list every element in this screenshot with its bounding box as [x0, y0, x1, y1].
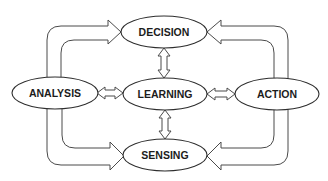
arrow-analysis-to-decision — [47, 20, 121, 78]
double-arrow-analysis-learning — [97, 87, 123, 99]
arrow-action-to-sensing — [207, 109, 288, 170]
learning-label: LEARNING — [138, 88, 193, 100]
cycle-diagram: DECISION ANALYSIS LEARNING ACTION SENSIN… — [0, 0, 328, 181]
double-arrow-learning-sensing — [159, 110, 171, 139]
double-arrow-decision-learning — [158, 48, 170, 78]
node-analysis: ANALYSIS — [12, 77, 98, 109]
node-action: ACTION — [235, 78, 319, 110]
node-learning: LEARNING — [123, 78, 207, 110]
decision-label: DECISION — [139, 26, 190, 38]
sensing-label: SENSING — [141, 149, 188, 161]
node-sensing: SENSING — [123, 139, 207, 171]
double-arrow-learning-action — [207, 88, 235, 100]
arrow-analysis-to-sensing — [47, 108, 124, 170]
analysis-label: ANALYSIS — [29, 87, 81, 99]
node-decision: DECISION — [121, 16, 207, 48]
arrow-action-to-decision — [207, 20, 288, 79]
action-label: ACTION — [257, 88, 297, 100]
